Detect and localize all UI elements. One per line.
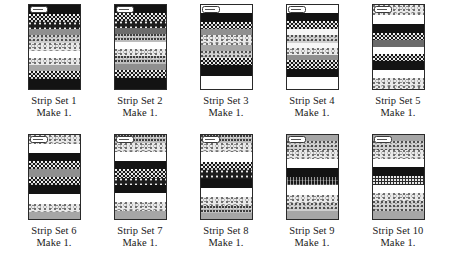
fabric-tag-icon	[288, 136, 306, 143]
strip-set-block[interactable]	[286, 4, 339, 90]
fabric-tag-icon	[374, 136, 392, 143]
strip-set-label: Strip Set 2	[117, 95, 162, 106]
fabric-band	[29, 29, 80, 36]
fabric-band	[287, 21, 338, 29]
strip-set-caption: Strip Set 9Make 1.	[289, 225, 334, 250]
strip-set-cell: Strip Set 10Make 1.	[355, 130, 441, 260]
fabric-band	[373, 47, 424, 54]
strip-set-label: Strip Set 7	[117, 225, 162, 236]
fabric-band	[201, 35, 252, 45]
fabric-band	[115, 49, 166, 57]
fabric-band	[287, 35, 338, 43]
strip-set-label: Strip Set 1	[31, 95, 76, 106]
fabric-band	[201, 51, 252, 58]
fabric-band	[115, 78, 166, 89]
strip-set-block[interactable]	[28, 134, 81, 220]
fabric-band	[115, 185, 166, 193]
fabric-band	[287, 159, 338, 168]
fabric-band	[201, 170, 252, 178]
fabric-band	[115, 178, 166, 186]
fabric-band-stack	[286, 4, 339, 90]
strip-set-make-count: Make 1.	[375, 107, 420, 119]
strip-set-cell: Strip Set 3Make 1.	[183, 0, 269, 130]
fabric-band-stack	[372, 134, 425, 220]
fabric-band	[373, 193, 424, 201]
strip-set-block[interactable]	[200, 4, 253, 90]
strip-set-caption: Strip Set 1Make 1.	[31, 95, 76, 120]
fabric-band	[201, 58, 252, 66]
fabric-band	[29, 153, 80, 161]
fabric-band	[201, 197, 252, 205]
fabric-band	[373, 40, 424, 47]
strip-set-block[interactable]	[200, 134, 253, 220]
strip-set-make-count: Make 1.	[203, 107, 248, 119]
fabric-band	[373, 150, 424, 159]
fabric-tag-icon	[30, 6, 48, 13]
fabric-tag-icon	[116, 6, 134, 13]
fabric-band	[29, 212, 80, 219]
strip-set-make-count: Make 1.	[31, 237, 76, 249]
fabric-band	[115, 70, 166, 78]
fabric-band	[115, 143, 166, 151]
fabric-band	[287, 69, 338, 77]
fabric-band	[287, 185, 338, 194]
fabric-band-stack	[372, 4, 425, 90]
strip-set-cell: Strip Set 7Make 1.	[97, 130, 183, 260]
strip-set-label: Strip Set 4	[289, 95, 334, 106]
fabric-band	[115, 193, 166, 202]
fabric-band-stack	[28, 4, 81, 90]
fabric-band	[115, 13, 166, 21]
strip-set-make-count: Make 1.	[117, 107, 162, 119]
fabric-band	[115, 169, 166, 177]
strip-set-block[interactable]	[372, 134, 425, 220]
fabric-band	[373, 185, 424, 193]
fabric-band	[29, 71, 80, 79]
strip-set-cell: Strip Set 1Make 1.	[11, 0, 97, 130]
fabric-band-stack	[28, 134, 81, 220]
fabric-band-stack	[200, 134, 253, 220]
fabric-band	[29, 185, 80, 193]
strip-set-block[interactable]	[114, 4, 167, 90]
strip-set-make-count: Make 1.	[289, 237, 334, 249]
strip-set-block[interactable]	[28, 4, 81, 90]
fabric-band	[201, 162, 252, 170]
fabric-band	[373, 70, 424, 78]
fabric-band	[373, 61, 424, 69]
fabric-band	[373, 33, 424, 41]
fabric-band	[373, 201, 424, 210]
strip-set-caption: Strip Set 8Make 1.	[203, 225, 248, 250]
strip-set-block[interactable]	[372, 4, 425, 90]
fabric-tag-icon	[288, 6, 306, 13]
fabric-band	[287, 177, 338, 185]
fabric-band	[115, 56, 166, 64]
strip-set-block[interactable]	[114, 134, 167, 220]
fabric-band	[373, 167, 424, 176]
fabric-band	[287, 77, 338, 89]
fabric-band	[29, 58, 80, 66]
fabric-tag-icon	[202, 136, 220, 143]
strip-set-label: Strip Set 6	[31, 225, 76, 236]
strip-set-label: Strip Set 3	[203, 95, 248, 106]
fabric-band	[115, 202, 166, 211]
strip-set-cell: Strip Set 6Make 1.	[11, 130, 97, 260]
strip-set-block[interactable]	[286, 134, 339, 220]
fabric-band	[29, 144, 80, 153]
fabric-band	[287, 203, 338, 211]
strip-set-caption: Strip Set 3Make 1.	[203, 95, 248, 120]
fabric-band	[29, 22, 80, 29]
strip-set-caption: Strip Set 4Make 1.	[289, 95, 334, 120]
fabric-tag-icon	[374, 6, 392, 13]
strip-set-label: Strip Set 5	[375, 95, 420, 106]
fabric-band	[201, 143, 252, 151]
fabric-band	[29, 43, 80, 51]
strip-set-diagram-sheet: Strip Set 1Make 1.Strip Set 2Make 1.Stri…	[0, 0, 462, 260]
fabric-band	[287, 195, 338, 203]
fabric-band	[201, 65, 252, 75]
fabric-band	[373, 15, 424, 24]
fabric-band	[201, 76, 252, 89]
strip-set-caption: Strip Set 10Make 1.	[373, 225, 424, 250]
strip-set-caption: Strip Set 2Make 1.	[117, 95, 162, 120]
fabric-band	[29, 14, 80, 22]
strip-set-cell: Strip Set 2Make 1.	[97, 0, 183, 130]
fabric-band-stack	[114, 4, 167, 90]
